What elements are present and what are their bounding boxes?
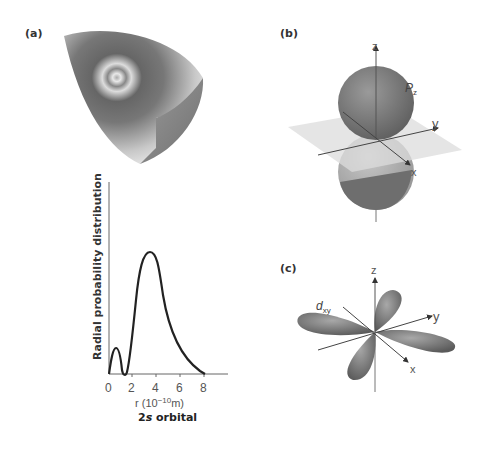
tick-0: 0 <box>105 381 112 395</box>
probability-curve <box>109 252 205 375</box>
tick-2: 2 <box>128 381 135 395</box>
dxy-lobe-lower-left <box>347 332 375 380</box>
tick-6: 6 <box>176 381 183 395</box>
y-axis-label-c: y <box>433 309 440 324</box>
pz-label: Pz <box>405 81 417 97</box>
dxy-orbital-diagram: z y x dxy <box>297 264 455 392</box>
y-axis-label-b: y <box>432 116 439 131</box>
graph-caption: 2s orbital <box>138 411 197 424</box>
dxy-label: dxy <box>316 299 331 315</box>
dxy-lobe-right <box>375 330 455 353</box>
pz-orbital-diagram: z y x Pz <box>288 40 462 222</box>
x-axis-label-b: x <box>411 166 417 178</box>
x-axis-label: r (10−10m) <box>135 396 184 409</box>
tick-4: 4 <box>152 381 159 395</box>
z-axis-label: z <box>372 40 378 52</box>
x-axis-label-c: x <box>410 363 416 375</box>
2s-orbital-cutaway <box>64 31 203 164</box>
radial-probability-chart: 0 2 4 6 8 r (10−10m) 2s orbital Radial p… <box>91 173 228 424</box>
dxy-lobe-upper-right <box>374 290 401 332</box>
tick-8: 8 <box>200 381 207 395</box>
z-axis-label-c: z <box>371 264 377 276</box>
y-axis-label: Radial probability distribution <box>91 173 104 360</box>
